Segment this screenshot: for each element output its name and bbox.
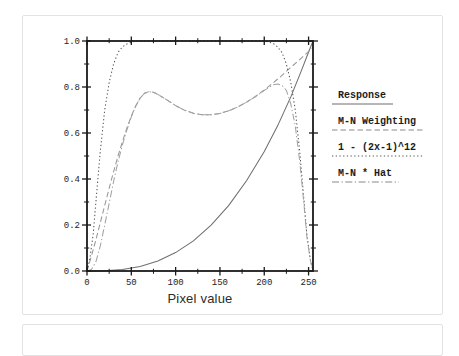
legend-line-sample-dashed — [332, 128, 423, 132]
axis-frame — [87, 41, 313, 271]
legend-label-response: Response — [338, 90, 386, 101]
x-tick-label: 250 — [300, 278, 316, 288]
y-tick-label: 0.0 — [64, 267, 80, 277]
legend: Response M-N Weighting 1 - (2x-1)^12 M-N… — [332, 84, 423, 188]
x-tick-label: 100 — [167, 278, 183, 288]
curve-3-dashdot — [87, 84, 313, 271]
x-tick-label: 200 — [256, 278, 272, 288]
curve-1-dashed — [87, 47, 313, 271]
y-tick-label: 0.4 — [64, 175, 80, 185]
legend-item-response: Response — [332, 84, 393, 106]
y-tick-label: 0.2 — [64, 221, 80, 231]
legend-label-mn-weighting: M-N Weighting — [338, 116, 416, 127]
curve-2-dotted — [87, 41, 313, 271]
y-tick-label: 0.6 — [64, 129, 80, 139]
x-tick-label: 50 — [126, 278, 137, 288]
legend-line-sample-dotted — [332, 154, 423, 158]
legend-label-hat-function: 1 - (2x-1)^12 — [338, 142, 416, 153]
legend-item-mn-times-hat: M-N * Hat — [332, 162, 399, 184]
legend-label-mn-times-hat: M-N * Hat — [338, 168, 392, 179]
figure-panel: 0501001502002500.00.20.40.60.81.0 Pixel … — [22, 15, 443, 315]
curve-0-solid — [87, 41, 313, 271]
x-tick-label: 150 — [212, 278, 228, 288]
y-tick-label: 1.0 — [64, 37, 80, 47]
x-tick-label: 0 — [84, 278, 89, 288]
y-tick-label: 0.8 — [64, 83, 80, 93]
lower-panel — [22, 324, 443, 356]
legend-line-sample-solid — [332, 102, 393, 106]
legend-item-hat-function: 1 - (2x-1)^12 — [332, 136, 423, 158]
legend-line-sample-dashdot — [332, 180, 399, 184]
legend-item-mn-weighting: M-N Weighting — [332, 110, 423, 132]
x-axis-title: Pixel value — [87, 291, 313, 306]
